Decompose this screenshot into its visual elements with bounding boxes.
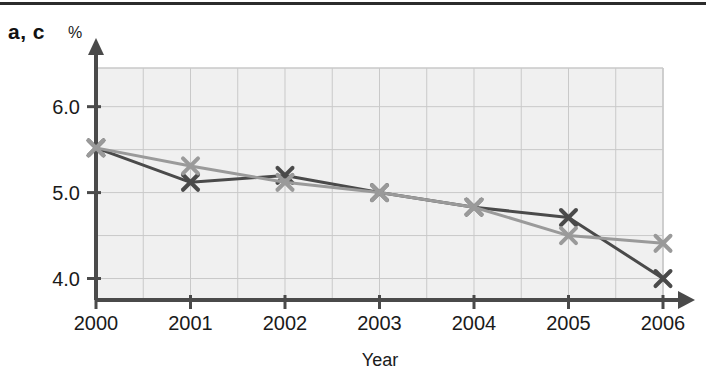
x-axis-title: Year (362, 350, 398, 370)
x-axis-tick-label: 2001 (168, 312, 213, 334)
x-axis-tick-labels: 2000200120022003200420052006 (74, 312, 686, 334)
x-axis-tick-label: 2002 (263, 312, 308, 334)
x-axis-tick-label: 2000 (74, 312, 119, 334)
x-axis-tick-label: 2006 (641, 312, 686, 334)
y-axis-tick-label: 4.0 (52, 268, 80, 290)
y-axis-tick-labels: 6.05.04.0 (52, 96, 80, 290)
y-axis-tick-label: 6.0 (52, 96, 80, 118)
x-axis-tick-label: 2003 (357, 312, 402, 334)
y-axis-tick-label: 5.0 (52, 182, 80, 204)
x-axis-tick-label: 2004 (452, 312, 497, 334)
line-chart: 6.05.04.0 2000200120022003200420052006 Y… (0, 0, 706, 380)
x-axis-tick-label: 2005 (546, 312, 591, 334)
figure-panel: a, c % 6.05.04.0 20002001200220032004200… (0, 0, 706, 380)
